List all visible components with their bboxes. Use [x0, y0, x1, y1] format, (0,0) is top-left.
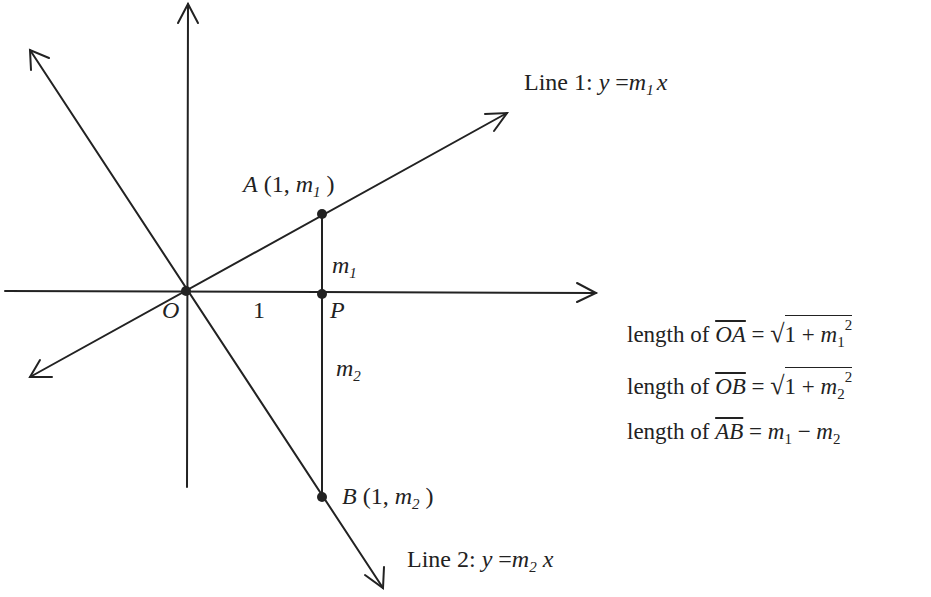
- point-A-coords: (1,: [264, 171, 296, 197]
- eq-ob-one: 1 +: [785, 374, 821, 399]
- m1-sub: 1: [349, 265, 357, 281]
- line-1-eq: =: [609, 69, 629, 95]
- line-1-x: x: [657, 69, 668, 95]
- eq-oa-equals: =: [746, 322, 770, 347]
- eq-oa-lhs: length of: [627, 322, 715, 347]
- eq-oa-one: 1 +: [785, 322, 821, 347]
- sqrt-icon: √: [770, 371, 784, 400]
- point-B-var: m: [395, 483, 412, 509]
- eq-oa-m: m: [821, 322, 838, 347]
- m2-sub: 2: [353, 368, 361, 384]
- line-1-m: m: [629, 69, 646, 95]
- equation-OA: length of OA = √1 + m12: [627, 315, 852, 351]
- line-2-y: y: [482, 546, 493, 572]
- line-2-x: x: [537, 546, 554, 572]
- point-B-close: ): [420, 483, 434, 509]
- point-A-close: ): [321, 171, 335, 197]
- point-B-sub: 2: [412, 496, 420, 512]
- eq-ob-sub: 2: [837, 386, 845, 402]
- eq-ab-m2: m: [816, 419, 833, 444]
- line-2-m: m: [512, 546, 529, 572]
- line-2-eq: =: [492, 546, 512, 572]
- point-O-label: O: [162, 298, 179, 322]
- point-B: [317, 492, 327, 502]
- line-1-label: Line 1: y =m1x: [524, 70, 667, 98]
- eq-oa-sub: 1: [837, 334, 845, 350]
- point-B-coords: (1,: [363, 483, 395, 509]
- eq-ab-lhs: length of: [627, 419, 715, 444]
- sqrt-body-oa: 1 + m12: [785, 315, 853, 351]
- point-P-label: P: [330, 298, 345, 322]
- eq-ob-pow: 2: [845, 369, 853, 385]
- point-A-sub: 1: [313, 184, 321, 200]
- point-A-label: A (1, m1 ): [243, 172, 335, 200]
- segment-OA: OA: [715, 322, 746, 347]
- sqrt-icon: √: [770, 319, 784, 348]
- eq-ab-m1: m: [768, 419, 785, 444]
- eq-ab-equals: =: [743, 419, 767, 444]
- line-1-y: y: [599, 69, 610, 95]
- segment-m2-label: m2: [336, 356, 361, 384]
- segment-OB: OB: [715, 374, 746, 399]
- point-A-letter: A: [243, 171, 258, 197]
- eq-ab-sub2: 2: [833, 431, 841, 447]
- x-axis: [5, 291, 596, 293]
- point-A-var: m: [296, 171, 313, 197]
- line-1-sub: 1: [646, 82, 654, 98]
- eq-oa-pow: 2: [845, 317, 853, 333]
- point-B-letter: B: [342, 483, 357, 509]
- line-2-label: Line 2: y =m2 x: [407, 547, 553, 575]
- line-2-sub: 2: [529, 559, 537, 575]
- equation-AB: length of AB = m1 − m2: [627, 419, 840, 448]
- segment-AB-label: AB: [715, 419, 743, 444]
- segment-m1-label: m1: [332, 253, 357, 281]
- eq-ob-lhs: length of: [627, 374, 715, 399]
- equation-OB: length of OB = √1 + m22: [627, 367, 852, 403]
- point-A: [317, 209, 327, 219]
- line-2-prefix: Line 2:: [407, 546, 482, 572]
- eq-ob-m: m: [821, 374, 838, 399]
- line-1: [30, 113, 507, 377]
- y-axis: [187, 4, 188, 487]
- eq-ab-minus: −: [792, 419, 816, 444]
- coordinate-diagram: [0, 0, 931, 597]
- eq-ob-equals: =: [746, 374, 770, 399]
- unit-label: 1: [253, 298, 265, 322]
- eq-ab-sub1: 1: [784, 431, 792, 447]
- point-O: [181, 286, 191, 296]
- point-P: [317, 289, 327, 299]
- m2-var: m: [336, 355, 353, 381]
- sqrt-body-ob: 1 + m22: [785, 367, 853, 403]
- line-1-prefix: Line 1:: [524, 69, 599, 95]
- point-B-label: B (1, m2 ): [342, 484, 434, 512]
- m1-var: m: [332, 252, 349, 278]
